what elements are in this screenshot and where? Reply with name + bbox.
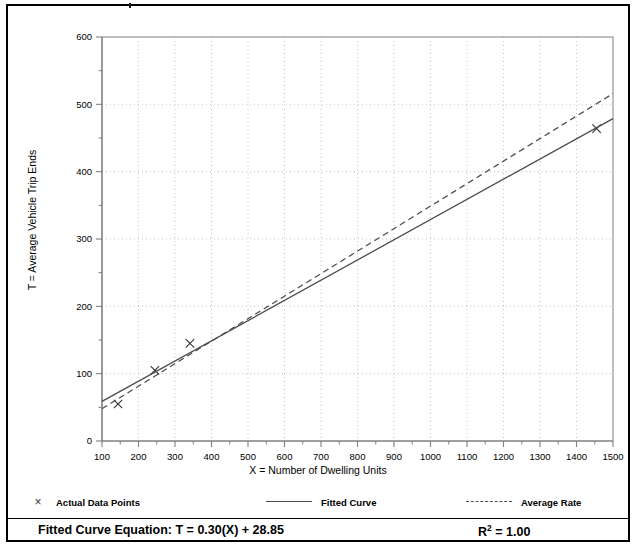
- x-axis-tick-label: 700: [313, 451, 329, 462]
- x-axis-tick-label: 800: [350, 451, 366, 462]
- y-axis-tick-label: 0: [87, 435, 92, 446]
- chart-svg: 0100200300400500600100200300400500600700…: [8, 6, 628, 484]
- fitted-curve-line: [102, 119, 613, 402]
- x-axis-tick-label: 1400: [566, 451, 587, 462]
- y-axis-tick-label: 600: [76, 31, 92, 42]
- x-axis-tick-label: 300: [167, 451, 183, 462]
- r-squared-value: R2 = 1.00: [478, 523, 530, 539]
- solid-line-icon: [266, 496, 312, 508]
- y-axis-tick-label: 200: [76, 301, 92, 312]
- legend-item-average-rate: Average Rate: [466, 488, 581, 516]
- equation-footer: Fitted Curve Equation: T = 0.30(X) + 28.…: [8, 519, 628, 540]
- x-axis-tick-label: 1200: [493, 451, 514, 462]
- x-axis-tick-label: 1100: [457, 451, 477, 462]
- x-axis-tick-label: 200: [131, 451, 147, 462]
- legend-label-fitted-curve: Fitted Curve: [321, 497, 376, 508]
- x-axis-tick-label: 1300: [529, 451, 550, 462]
- legend-item-actual-data-points: × Actual Data Points: [30, 488, 140, 516]
- r-squared-exponent: 2: [487, 523, 492, 533]
- x-axis-tick-label: 1500: [602, 451, 623, 462]
- x-axis-title: X = Number of Dwelling Units: [8, 464, 628, 476]
- x-axis-tick-label: 900: [386, 451, 402, 462]
- x-axis-tick-label: 1000: [420, 451, 441, 462]
- figure-panel: 0100200300400500600100200300400500600700…: [6, 4, 630, 542]
- legend-item-fitted-curve: Fitted Curve: [266, 488, 376, 516]
- x-axis-tick-label: 400: [204, 451, 220, 462]
- y-axis-title: T = Average Vehicle Trip Ends: [26, 120, 38, 320]
- legend-label-actual-data-points: Actual Data Points: [56, 497, 140, 508]
- y-axis-tick-label: 500: [76, 99, 92, 110]
- r-squared-number: = 1.00: [495, 525, 530, 539]
- legend-label-average-rate: Average Rate: [521, 497, 581, 508]
- y-axis-tick-label: 300: [76, 233, 92, 244]
- chart-legend: × Actual Data Points Fitted Curve Averag…: [8, 488, 628, 516]
- dashed-line-icon: [466, 496, 512, 508]
- data-point-marker: [186, 339, 194, 347]
- r-squared-prefix: R: [478, 525, 487, 539]
- chart-plot-area: 0100200300400500600100200300400500600700…: [8, 6, 628, 484]
- y-axis-tick-label: 100: [76, 368, 92, 379]
- x-marker-icon: ×: [30, 496, 46, 508]
- y-axis-tick-label: 400: [76, 166, 92, 177]
- x-axis-tick-label: 600: [277, 451, 293, 462]
- fitted-curve-equation: Fitted Curve Equation: T = 0.30(X) + 28.…: [38, 523, 284, 537]
- x-axis-tick-label: 100: [94, 451, 110, 462]
- x-axis-tick-label: 500: [240, 451, 256, 462]
